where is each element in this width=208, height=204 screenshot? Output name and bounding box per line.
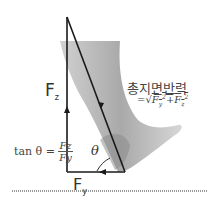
tangent-formula: tan θ = Fz Fy — [14, 140, 73, 163]
vertical-force-label: Fz — [45, 80, 59, 102]
ground-reaction-force-diagram: Fz Fy θ 총지면반력 =√Fy2+Fz2 tan θ = Fz Fy — [0, 0, 208, 204]
horizontal-force-label: Fy — [73, 175, 87, 196]
fraction-denominator: Fy — [58, 152, 72, 163]
arrow-up-icon — [64, 106, 70, 113]
angle-arc — [97, 158, 110, 171]
tangent-fraction: Fz Fy — [58, 140, 72, 163]
arrow-left-icon — [99, 169, 106, 175]
resultant-formula: =√Fy2+Fz2 — [137, 93, 188, 107]
angle-label: θ — [91, 143, 99, 158]
fraction-numerator: Fz — [58, 140, 72, 152]
